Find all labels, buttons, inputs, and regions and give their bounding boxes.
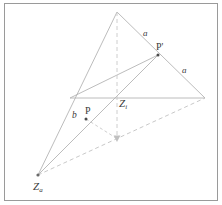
point-label-p-prime: P' [156,42,163,52]
side-label-a-upper: a [143,29,148,38]
point-label-z-i: Zi [119,98,127,109]
segment-apex-to-right-vertex [117,12,205,98]
point-label-p: P [85,106,91,116]
side-label-b: b [72,111,77,121]
geometry-figure-root: a a b P' P Zi Za [0,0,222,205]
point-label-z-a: Za [33,181,43,192]
dot-z-a [36,173,39,176]
dot-p-prime [157,54,160,57]
segment-left-mid-to-p-prime [70,55,158,98]
geometry-diagram-svg [0,0,222,205]
dot-p [85,118,88,121]
segment-z-a-to-p-prime [38,55,158,175]
vertical-projection-arrow [114,136,121,143]
side-label-a-lower: a [182,66,187,75]
segment-z-a-to-right-vertex-dashed [38,98,205,175]
segment-apex-to-z-a [38,12,117,175]
segment-p-to-arrow-tip-dashed [86,119,116,138]
z-a-subscript: a [39,186,43,194]
z-i-subscript: i [125,103,127,111]
